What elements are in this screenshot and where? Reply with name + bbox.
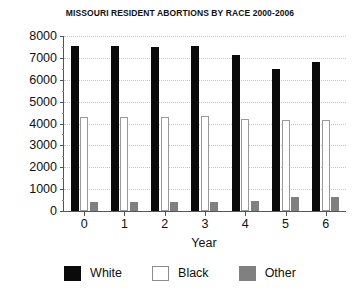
bar-other-year-5 xyxy=(291,197,299,211)
bar-black-year-2 xyxy=(161,117,169,212)
x-axis-tick-label: 5 xyxy=(282,218,289,231)
bar-other-year-2 xyxy=(170,202,178,211)
bar-white-year-6 xyxy=(312,62,320,211)
bar-white-year-1 xyxy=(111,46,119,211)
bar-black-year-1 xyxy=(120,117,128,211)
legend-swatch-icon xyxy=(152,266,169,281)
bar-other-year-1 xyxy=(130,202,138,211)
y-axis-tick-label: 8000 xyxy=(29,30,57,43)
chart-legend: WhiteBlackOther xyxy=(0,266,360,281)
legend-item-other[interactable]: Other xyxy=(239,266,296,281)
y-axis-tick-label: 7000 xyxy=(29,52,57,65)
legend-label: Other xyxy=(265,267,296,280)
bar-other-year-4 xyxy=(251,201,259,211)
x-axis-tick-label: 0 xyxy=(81,218,88,231)
bar-group xyxy=(265,36,305,211)
legend-item-black[interactable]: Black xyxy=(152,266,209,281)
x-axis-tick-mark xyxy=(326,211,327,216)
x-axis-tick-label: 6 xyxy=(322,218,329,231)
y-axis-tick-label: 2000 xyxy=(29,161,57,174)
bar-other-year-6 xyxy=(331,197,339,211)
bar-black-year-3 xyxy=(201,116,209,211)
bar-group xyxy=(145,36,185,211)
y-axis-tick-label: 3000 xyxy=(29,139,57,152)
legend-label: Black xyxy=(178,267,209,280)
legend-swatch-icon xyxy=(64,266,81,281)
bar-other-year-3 xyxy=(210,202,218,211)
bar-group xyxy=(64,36,104,211)
legend-item-white[interactable]: White xyxy=(64,266,122,281)
bar-white-year-2 xyxy=(151,47,159,211)
y-axis-tick-label: 4000 xyxy=(29,117,57,130)
x-axis-tick-label: 4 xyxy=(242,218,249,231)
bar-black-year-5 xyxy=(282,120,290,211)
y-axis-tick-label: 0 xyxy=(50,205,57,218)
x-axis-tick-mark xyxy=(124,211,125,216)
bar-group xyxy=(225,36,265,211)
chart-title: MISSOURI RESIDENT ABORTIONS BY RACE 2000… xyxy=(0,8,360,18)
bar-white-year-3 xyxy=(191,46,199,211)
y-axis-tick-label: 6000 xyxy=(29,74,57,87)
y-axis-tick-label: 1000 xyxy=(29,183,57,196)
x-axis-tick-label: 1 xyxy=(121,218,128,231)
y-axis-tick-label: 5000 xyxy=(29,95,57,108)
plot-area: 0100020003000400050006000700080000123456 xyxy=(63,36,346,212)
chart-container: MISSOURI RESIDENT ABORTIONS BY RACE 2000… xyxy=(0,0,360,305)
x-axis-tick-label: 2 xyxy=(161,218,168,231)
bar-group xyxy=(104,36,144,211)
x-axis-tick-mark xyxy=(165,211,166,216)
bar-white-year-5 xyxy=(272,69,280,211)
x-axis-tick-mark xyxy=(205,211,206,216)
bar-black-year-0 xyxy=(80,117,88,211)
x-axis-tick-label: 3 xyxy=(202,218,209,231)
bar-group xyxy=(185,36,225,211)
legend-label: White xyxy=(90,267,122,280)
x-axis-tick-mark xyxy=(286,211,287,216)
bar-white-year-4 xyxy=(232,55,240,211)
bar-other-year-0 xyxy=(90,202,98,211)
x-axis-title: Year xyxy=(63,236,345,250)
x-axis-tick-mark xyxy=(245,211,246,216)
bar-black-year-6 xyxy=(322,120,330,211)
legend-swatch-icon xyxy=(239,266,256,281)
bar-black-year-4 xyxy=(241,119,249,211)
x-axis-tick-mark xyxy=(84,211,85,216)
bar-white-year-0 xyxy=(71,46,79,211)
bar-group xyxy=(306,36,346,211)
y-axis-tick-mark xyxy=(60,211,64,212)
